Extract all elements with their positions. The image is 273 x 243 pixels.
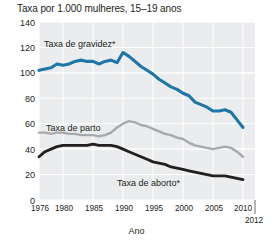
y-tick-label: 60 bbox=[25, 119, 35, 129]
x-axis-ticks: 1976 1980 1985 1990 1995 2000 2005 2010 … bbox=[31, 204, 264, 225]
y-axis-ticks: 140 120 100 80 60 40 20 0 bbox=[20, 18, 35, 206]
chart-container: Taxa por 1.000 mulheres, 15–19 anos bbox=[0, 0, 273, 243]
x-tick-label: 1995 bbox=[145, 204, 164, 213]
x-tick-label: 1976 bbox=[31, 204, 50, 213]
x-tick-label: 2000 bbox=[175, 204, 194, 213]
x-axis-title: Ano bbox=[0, 226, 273, 236]
chart-plot: 140 120 100 80 60 40 20 0 1976 1980 1985… bbox=[0, 0, 273, 243]
y-tick-label: 40 bbox=[25, 145, 35, 155]
y-tick-label: 100 bbox=[20, 68, 35, 78]
x-tick-label: 2010 bbox=[234, 204, 253, 213]
x-tick-label: 1990 bbox=[115, 204, 134, 213]
series-label-abortion: Taxa de aborto* bbox=[117, 178, 181, 188]
series-label-pregnancy: Taxa de gravidez* bbox=[44, 39, 116, 49]
y-tick-label: 20 bbox=[25, 170, 35, 180]
y-tick-label: 120 bbox=[20, 43, 35, 53]
series-label-birth: Taxa de parto bbox=[46, 123, 101, 133]
y-tick-label: 80 bbox=[25, 94, 35, 104]
y-tick-label: 140 bbox=[20, 18, 35, 28]
x-tick-label-end: 2012 bbox=[245, 216, 264, 225]
x-tick-label: 2005 bbox=[205, 204, 224, 213]
x-tick-label: 1985 bbox=[85, 204, 104, 213]
x-tick-label: 1980 bbox=[55, 204, 74, 213]
